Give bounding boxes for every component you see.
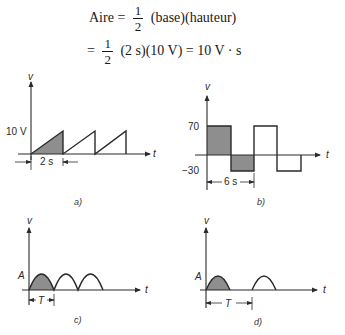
y-label-d: v [204, 215, 210, 226]
caption-a: a) [74, 197, 82, 207]
y-label-c: v [27, 215, 33, 226]
x-label-c: t [145, 284, 149, 295]
x-label-a: t [153, 148, 157, 159]
dimension-label-d: T [225, 298, 232, 309]
figure-a-sawtooth [15, 82, 150, 170]
figure-b-square-wave [195, 96, 320, 190]
y-label-a: v [28, 71, 34, 82]
x-label-d: t [323, 284, 327, 295]
caption-d: d) [254, 317, 262, 327]
level-label-c: A [17, 270, 25, 281]
high-label-b: 70 [188, 121, 200, 132]
shaded-area-b-low [231, 155, 254, 171]
caption-b: b) [257, 197, 265, 207]
low-label-b: −30 [182, 165, 199, 176]
y-label-b: v [205, 81, 211, 92]
level-label-a: 10 V [6, 126, 27, 137]
dimension-label-a: 2 s [40, 156, 53, 167]
caption-c: c) [74, 315, 82, 325]
dimension-label-b: 6 s [224, 176, 237, 187]
shaded-area-b-high [207, 126, 231, 155]
level-label-d: A [194, 271, 202, 282]
dimension-label-c: T [38, 295, 45, 306]
waveform-figures: v t 10 V 2 s a) v t 70 −30 6 s b) v t A … [0, 0, 345, 335]
figure-d-half-wave [200, 228, 317, 310]
x-label-b: t [326, 149, 330, 160]
